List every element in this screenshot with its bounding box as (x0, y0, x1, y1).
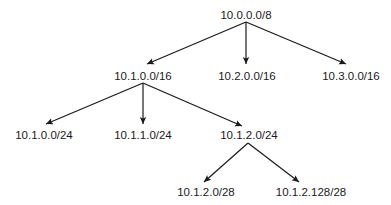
nodes-group: 10.0.0.0/810.1.0.0/1610.2.0.0/1610.3.0.0… (15, 9, 380, 198)
node-label: 10.3.0.0/16 (322, 70, 380, 82)
edges-group (46, 22, 346, 182)
edge-arrow-n0-n1 (147, 22, 246, 64)
edge-arrow-n1-n6 (143, 83, 242, 126)
edge-arrow-n1-n4 (46, 83, 143, 124)
node-label: 10.1.1.0/24 (114, 129, 172, 141)
edge-arrow-n6-n7 (204, 143, 248, 182)
node-label: 10.0.0.0/8 (220, 9, 271, 21)
edge-arrow-n6-n8 (248, 143, 299, 182)
node-label: 10.1.2.0/28 (177, 186, 235, 198)
edge-arrow-n0-n3 (246, 22, 346, 64)
node-label: 10.1.0.0/24 (15, 129, 73, 141)
node-label: 10.1.2.128/28 (276, 186, 346, 198)
node-label: 10.1.2.0/24 (220, 129, 278, 141)
node-label: 10.2.0.0/16 (218, 70, 276, 82)
subnet-hierarchy-diagram: 10.0.0.0/810.1.0.0/1610.2.0.0/1610.3.0.0… (0, 0, 391, 205)
node-label: 10.1.0.0/16 (114, 70, 172, 82)
